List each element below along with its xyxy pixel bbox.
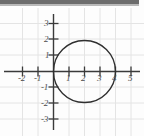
x-tick-label-2: 2: [81, 74, 86, 83]
x-tick-label--1: -1: [34, 74, 41, 83]
x-tick-label-3: 3: [97, 74, 102, 83]
x-tick-label-4: 4: [112, 74, 117, 83]
y-tick-label-3: 3: [44, 19, 49, 28]
x-tick-label-1: 1: [66, 74, 71, 83]
y-tick-label--2: -2: [41, 99, 48, 108]
y-tick-label--1: -1: [41, 83, 48, 92]
x-tick-label--2: -2: [18, 74, 25, 83]
x-tick-label-5: 5: [128, 74, 133, 83]
y-tick-label-1: 1: [45, 51, 50, 60]
figure-container: -2 -1 1 2 3 4 5 3 2 1 -1 -2 -3 Graph of …: [0, 0, 144, 136]
y-tick-label-2: 2: [44, 35, 49, 44]
plot-svg: [0, 0, 144, 136]
y-tick-label--3: -3: [41, 115, 48, 124]
coordinate-plot: -2 -1 1 2 3 4 5 3 2 1 -1 -2 -3: [0, 0, 144, 136]
